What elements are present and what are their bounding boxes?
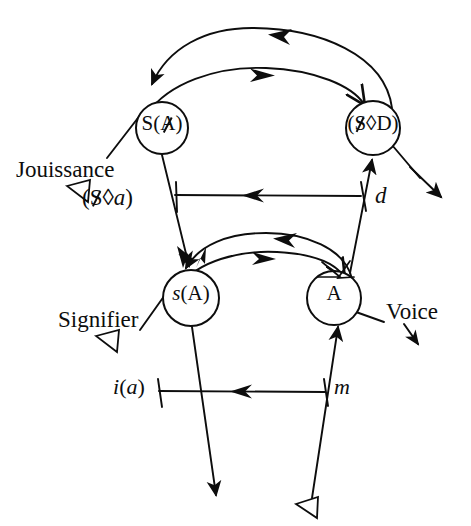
node-label-barred-s-lozenge-d: (S◊D) (342, 113, 404, 134)
arrowhead-lower-inner-mid (252, 252, 276, 265)
node-label-big-a: A (313, 283, 355, 304)
label-fantasy-formula: (S◊a) (82, 186, 133, 209)
graph-of-desire-canvas (0, 0, 471, 526)
node-label-suffix: ) (175, 111, 182, 135)
lozenge-glyph: ◊ (102, 185, 113, 210)
edge-chain-upper-right (350, 160, 372, 273)
node-label-prefix: ( (347, 111, 354, 135)
hollow-triangle-bottom (296, 497, 318, 518)
edge-demand-horizontal (175, 195, 361, 196)
lozenge-glyph: ◊ (366, 111, 376, 135)
arrowhead-lower-outer-mid (273, 233, 297, 248)
edge-upper-inner-arc (148, 68, 364, 113)
arrow-voice-down (404, 324, 418, 344)
graph-of-desire-figure: S(A) (S◊D) s(A) A Jouissance Signifier V… (0, 0, 471, 526)
arrowhead-upper-outer-mid (268, 29, 292, 45)
fantasy-paren-open: ( (82, 185, 90, 210)
italic-a-glyph: a (114, 185, 126, 210)
tick-demand-left (176, 182, 177, 212)
label-ego: m (334, 376, 350, 398)
label-imaginary-ego-ideal: i(a) (113, 376, 145, 398)
label-voice: Voice (386, 300, 438, 323)
barred-s-glyph: S (90, 186, 103, 209)
label-demand: d (375, 184, 387, 207)
edge-jouissance-to-signifier (162, 155, 189, 266)
italic-a-glyph: a (126, 374, 137, 399)
edge-chain-lower-right (312, 327, 338, 498)
tick-mirror-left (158, 379, 162, 407)
node-label-s-barred-a: S(A) (134, 113, 190, 134)
paren-close: ) (137, 374, 144, 399)
node-label-prefix: S( (142, 111, 161, 135)
italic-s-glyph: s (172, 281, 180, 305)
hollow-triangle-signifier (96, 330, 119, 352)
node-label-suffix: D) (376, 111, 398, 135)
edge-signifier-descending (192, 327, 216, 495)
label-jouissance: Jouissance (16, 158, 114, 181)
barred-a-glyph: A (160, 113, 175, 134)
label-signifier: Signifier (58, 308, 139, 331)
stub-voice-lower (356, 312, 384, 322)
barred-s-glyph: S (354, 113, 366, 134)
fantasy-paren-close: ) (125, 185, 133, 210)
node-label-suffix: (A) (181, 281, 210, 305)
edge-voice-exit (410, 167, 441, 197)
arrowhead-upper-inner-mid (250, 69, 275, 83)
node-label-small-s-a: s(A) (163, 283, 219, 304)
